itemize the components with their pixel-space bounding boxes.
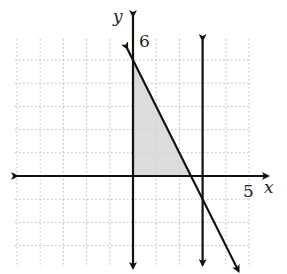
x-tick-label-5: 5	[243, 181, 254, 201]
graph: y 6 5 x	[0, 0, 287, 274]
y-axis-label: y	[112, 6, 123, 26]
y-tick-label-6: 6	[139, 31, 150, 51]
x-axis-label: x	[264, 177, 274, 197]
